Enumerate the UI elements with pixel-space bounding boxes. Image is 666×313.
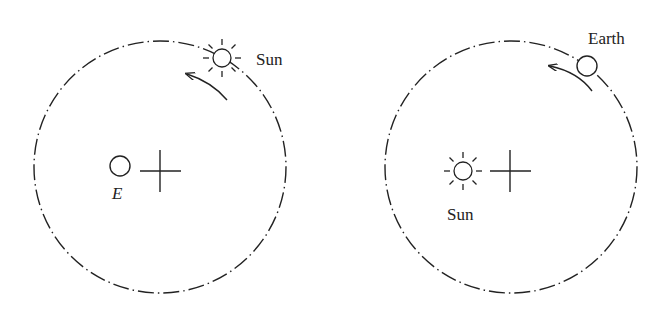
earth-label: Earth — [588, 29, 625, 48]
right-panel-heliocentric: Sun Earth — [385, 29, 637, 293]
center-cross-mark — [140, 150, 181, 192]
sun-label: Sun — [256, 50, 283, 69]
left-panel-geocentric: E Sun — [34, 39, 286, 293]
center-cross-mark — [490, 150, 531, 192]
earth-circle-icon — [110, 156, 130, 176]
sun-icon — [203, 39, 241, 77]
earth-circle-icon — [577, 56, 597, 76]
orbit-diagram: E Sun Sun Earth — [0, 0, 666, 313]
counterclockwise-arrow-icon — [187, 74, 227, 100]
earth-orbit-path — [385, 41, 637, 293]
sun-label: Sun — [447, 205, 474, 224]
sun-icon — [444, 152, 482, 190]
earth-label-e: E — [111, 184, 123, 203]
